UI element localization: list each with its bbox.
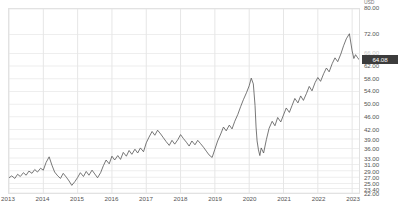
x-tick-label: 2015 (70, 196, 84, 202)
price-line-series (9, 9, 359, 193)
x-tick-label: 2016 (105, 196, 119, 202)
x-tick-label: 2017 (139, 196, 153, 202)
y-tick-label: 39.00 (364, 137, 379, 143)
x-tick-label: 2021 (277, 196, 291, 202)
x-tick-label: 2018 (174, 196, 188, 202)
y-tick-label: 58.00 (364, 76, 379, 82)
x-tick-label: 2022 (312, 196, 326, 202)
plot-area (8, 8, 360, 194)
y-tick-label: 72.00 (364, 31, 379, 37)
x-tick-label: 2019 (208, 196, 222, 202)
x-axis: 2013201420152016201720182019202020212022… (0, 196, 399, 212)
y-tick-label: 42.00 (364, 127, 379, 133)
x-tick-label: 2020 (243, 196, 257, 202)
x-tick-label: 2013 (1, 196, 15, 202)
stock-price-chart: USD 64.08 80.0072.0066.0062.0058.0054.00… (0, 0, 399, 222)
y-tick-label: 50.00 (364, 101, 379, 107)
y-tick-label: 80.00 (364, 5, 379, 11)
y-tick-label: 54.00 (364, 88, 379, 94)
y-axis: USD 64.08 80.0072.0066.0062.0058.0054.00… (361, 0, 399, 222)
y-tick-label: 62.00 (364, 63, 379, 69)
y-tick-label: 46.00 (364, 114, 379, 120)
y-tick-label: 36.00 (364, 146, 379, 152)
x-tick-label: 2023 (346, 196, 360, 202)
y-tick-label: 66.00 (364, 50, 379, 56)
x-tick-label: 2014 (36, 196, 50, 202)
